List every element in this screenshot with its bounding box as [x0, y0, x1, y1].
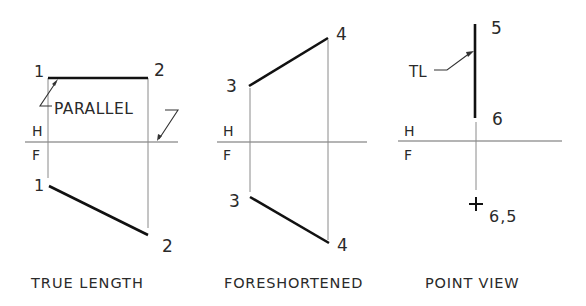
- orthographic-line-views-diagram: 1 2 PARALLEL H F 1 2 TRUE LENGTH 3 4 H F…: [0, 0, 586, 306]
- fold-label-h: H: [404, 123, 415, 139]
- front-view-line-1-2: [49, 186, 148, 235]
- foreshortened-view: 3 4 H F 3 4 FORESHORTENED: [217, 24, 367, 291]
- tl-annotation: TL: [408, 63, 427, 81]
- front-point-label: 6,5: [489, 207, 517, 226]
- fold-label-h: H: [223, 123, 234, 139]
- arrowhead-icon: [466, 51, 474, 57]
- top-point-label-a: 3: [226, 76, 237, 96]
- top-point-label-b: 4: [336, 24, 347, 44]
- top-view-line-3-4: [249, 38, 328, 86]
- true-length-view: 1 2 PARALLEL H F 1 2 TRUE LENGTH: [25, 60, 178, 291]
- top-point-label-b: 6: [492, 109, 503, 129]
- fold-label-f: F: [223, 147, 231, 163]
- parallel-leader-right: [159, 110, 178, 139]
- fold-label-f: F: [32, 147, 40, 163]
- arrowhead-icon: [52, 79, 58, 86]
- top-point-label-a: 1: [34, 62, 44, 81]
- front-point-label-b: 2: [162, 236, 173, 256]
- view-caption: FORESHORTENED: [224, 275, 363, 291]
- top-point-label-b: 2: [154, 60, 165, 80]
- tl-leader: [434, 53, 470, 70]
- view-caption: POINT VIEW: [425, 275, 519, 291]
- fold-label-h: H: [32, 123, 43, 139]
- front-point-label-a: 3: [229, 191, 240, 211]
- parallel-annotation: PARALLEL: [54, 100, 133, 118]
- top-point-label-a: 5: [491, 18, 502, 38]
- front-view-line-3-4: [250, 197, 329, 243]
- front-point-label-a: 1: [34, 176, 44, 195]
- fold-label-f: F: [404, 147, 412, 163]
- point-view: 5 TL 6 H F 6,5 POINT VIEW: [398, 18, 562, 291]
- front-point-label-b: 4: [337, 235, 348, 255]
- view-caption: TRUE LENGTH: [30, 275, 144, 291]
